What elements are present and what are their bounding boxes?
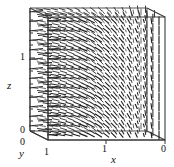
- z-tick-0: 0: [20, 125, 25, 135]
- x-tick-1: 1: [102, 144, 107, 154]
- x-tick-0: 0: [161, 144, 166, 154]
- y-tick-0: 0: [20, 137, 25, 147]
- y-tick-1: 1: [44, 147, 49, 157]
- plot-canvas: [0, 0, 174, 167]
- z-tick-1: 1: [20, 52, 25, 62]
- z-axis-label: z: [7, 80, 11, 91]
- z-axis: [30, 8, 35, 131]
- y-axis-label: y: [19, 148, 24, 159]
- y-axis: [30, 131, 48, 140]
- x-axis-label: x: [111, 154, 116, 165]
- figure-3d-director-field: 1 0 z 0 1 y 1 0 x: [0, 0, 174, 167]
